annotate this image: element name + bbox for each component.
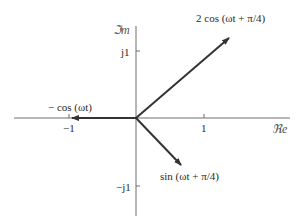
tick-label-neg-one: −1 (63, 122, 75, 134)
phasor-diagram (0, 0, 304, 221)
phasor-sin-arrow (136, 118, 181, 165)
phasor-neg-cos-label: − cos (ωt) (48, 101, 92, 113)
phasor-sin-label: sin (ωt + π/4) (160, 170, 219, 182)
tick-label-neg-j1: −j1 (116, 181, 131, 193)
real-axis-label: ℜe (272, 123, 287, 135)
tick-label-j1: j1 (121, 46, 130, 58)
phasor-2cos-arrow (136, 38, 229, 118)
tick-label-one: 1 (201, 122, 207, 134)
imaginary-axis-label: ℑm (113, 24, 130, 36)
phasor-2cos-label: 2 cos (ωt + π/4) (196, 12, 265, 24)
